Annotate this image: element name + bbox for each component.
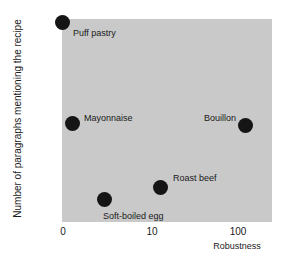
x-tick-label: 0	[43, 226, 83, 237]
point-label-roast-beef: Roast beef	[173, 173, 217, 183]
x-axis-title: Robustness	[197, 241, 277, 251]
point-label-mayonnaise: Mayonnaise	[84, 113, 133, 123]
point-label-puff-pastry: Puff pastry	[73, 28, 116, 38]
scatter-chart-figure: Puff pastryMayonnaiseSoft-boiled eggRoas…	[0, 0, 285, 277]
x-tick-label: 100	[218, 226, 258, 237]
data-point-roast-beef	[153, 180, 168, 195]
point-label-soft-boiled-egg: Soft-boiled egg	[103, 211, 164, 221]
point-label-bouillon: Bouillon	[204, 113, 236, 123]
data-point-bouillon	[238, 118, 253, 133]
data-point-mayonnaise	[65, 116, 80, 131]
data-point-soft-boiled-egg	[97, 192, 112, 207]
x-tick-label: 10	[132, 226, 172, 237]
y-axis-title: Number of paragraphs mentioning the reci…	[12, 19, 23, 219]
